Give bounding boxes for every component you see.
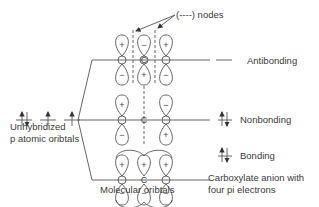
right-level-markers — [216, 60, 232, 162]
svg-text:+: + — [163, 40, 168, 50]
svg-text:+: + — [163, 130, 168, 140]
svg-text:+: + — [163, 160, 168, 170]
svg-text:+: + — [119, 40, 124, 50]
nonbonding-label: Nonbonding — [240, 114, 291, 125]
svg-text:+: + — [119, 100, 124, 110]
svg-text:C: C — [141, 55, 148, 65]
caption-line2: four pi electrons — [208, 184, 276, 195]
molecular-orbitals-label: Molecular oribtals — [100, 184, 174, 195]
nodes-legend: (----) nodes — [176, 9, 224, 20]
bonding-label: Bonding — [240, 150, 275, 161]
svg-text:−: − — [163, 100, 168, 110]
svg-text:C: C — [141, 115, 148, 125]
left-label-line2: p atomic oribtals — [10, 133, 79, 144]
svg-text:+: + — [141, 70, 146, 80]
svg-text:−: − — [141, 40, 146, 50]
antibonding-label: Antibonding — [247, 55, 297, 66]
caption-line1: Carboxylate anion with — [208, 172, 304, 183]
left-label-line1: Unhybridized — [10, 121, 65, 132]
svg-text:−: − — [119, 70, 124, 80]
svg-text:+: + — [141, 160, 146, 170]
svg-text:−: − — [119, 130, 124, 140]
svg-text:+: + — [119, 160, 124, 170]
svg-text:−: − — [163, 70, 168, 80]
